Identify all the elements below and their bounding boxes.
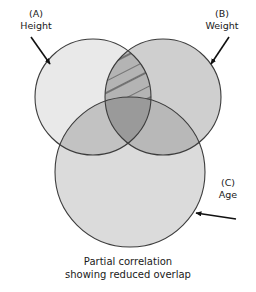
label-a-tag: (A): [29, 8, 43, 19]
arrow-c-icon: [196, 213, 236, 219]
caption-line-2: showing reduced overlap: [65, 269, 191, 280]
label-c-tag: (C): [221, 177, 235, 188]
label-a-group[interactable]: (A) Height: [20, 8, 52, 64]
figure-caption: Partial correlation showing reduced over…: [65, 256, 191, 280]
label-a-name: Height: [20, 20, 52, 31]
label-b-group[interactable]: (B) Weight: [205, 8, 238, 64]
label-b-tag: (B): [215, 8, 229, 19]
label-b-name: Weight: [205, 20, 238, 31]
caption-line-1: Partial correlation: [84, 256, 172, 267]
label-c-name: Age: [219, 189, 238, 200]
venn-diagram-figure: (A) Height (B) Weight (C) Age Partial co…: [0, 0, 256, 292]
arrow-a-icon: [31, 37, 50, 64]
arrow-b-icon: [211, 37, 229, 64]
